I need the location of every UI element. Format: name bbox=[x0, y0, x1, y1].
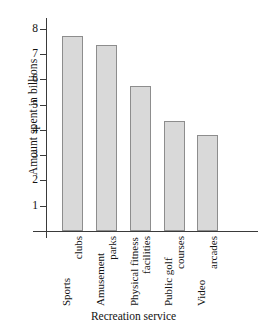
x-axis-label-line: parks bbox=[107, 236, 119, 306]
x-axis-label: Sportsclubs bbox=[61, 236, 84, 306]
x-axis-label-line: arcades bbox=[208, 236, 220, 306]
x-axis-label-line: Physical fitness bbox=[129, 236, 141, 306]
y-tick-label-wrap: 2 bbox=[0, 174, 38, 185]
x-axis-label-line: Amusement bbox=[95, 236, 107, 306]
x-axis-label: Videoarcades bbox=[196, 236, 219, 306]
bar bbox=[197, 135, 218, 231]
y-tick-mark bbox=[40, 206, 46, 207]
x-axis-label-line: facilities bbox=[141, 236, 153, 306]
x-axis-label-line: clubs bbox=[73, 236, 85, 306]
y-tick-label-wrap: 6 bbox=[0, 73, 38, 84]
y-tick-label: 4 bbox=[4, 124, 38, 135]
y-tick-mark bbox=[40, 54, 46, 55]
x-axis-label: Physical fitnessfacilities bbox=[129, 236, 152, 306]
x-axis-label-line: Sports bbox=[61, 236, 73, 306]
x-axis-label: Public golfcourses bbox=[163, 236, 186, 306]
y-tick-label: 6 bbox=[4, 73, 38, 84]
y-tick-label-wrap: 7 bbox=[0, 48, 38, 59]
y-tick-label-wrap: 5 bbox=[0, 99, 38, 110]
y-tick-mark bbox=[40, 29, 46, 30]
x-axis-title: Recreation service bbox=[0, 310, 267, 322]
x-axis-label: Amusementparks bbox=[95, 236, 118, 306]
y-tick-label-wrap: 3 bbox=[0, 149, 38, 160]
y-axis-line bbox=[46, 18, 47, 238]
bar bbox=[130, 86, 151, 231]
bar bbox=[164, 121, 185, 231]
y-tick-mark bbox=[40, 180, 46, 181]
y-tick-mark bbox=[40, 79, 46, 80]
y-tick-label: 8 bbox=[4, 23, 38, 34]
x-axis-label-line: Video bbox=[196, 236, 208, 306]
plot-area: 12345678 SportsclubsAmusementparksPhysic… bbox=[0, 0, 267, 332]
x-axis-label-line: courses bbox=[175, 236, 187, 306]
bar bbox=[96, 45, 117, 231]
y-tick-mark bbox=[40, 130, 46, 131]
y-tick-label: 3 bbox=[4, 149, 38, 160]
y-tick-label-wrap: 8 bbox=[0, 23, 38, 34]
y-tick-label: 5 bbox=[4, 99, 38, 110]
y-tick-label: 2 bbox=[4, 174, 38, 185]
x-axis-line bbox=[33, 231, 258, 232]
bar bbox=[62, 36, 83, 231]
y-tick-label-wrap: 1 bbox=[0, 200, 38, 211]
bar-chart: Amount spent in billions 12345678 Sports… bbox=[0, 0, 267, 332]
y-tick-mark bbox=[40, 105, 46, 106]
y-tick-mark bbox=[40, 155, 46, 156]
y-tick-label: 7 bbox=[4, 48, 38, 59]
y-tick-label-wrap: 4 bbox=[0, 124, 38, 135]
x-axis-label-line: Public golf bbox=[163, 236, 175, 306]
y-tick-label: 1 bbox=[4, 200, 38, 211]
